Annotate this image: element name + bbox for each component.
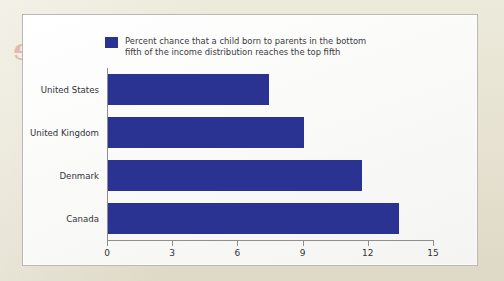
- bar: [108, 160, 362, 191]
- chart-legend: Percent chance that a child born to pare…: [105, 36, 366, 59]
- category-label: United Kingdom: [30, 128, 99, 138]
- scanned-page: Income Income Percent chance that a chil…: [0, 0, 504, 281]
- bar-row: Denmark: [108, 160, 362, 191]
- x-axis-tick: [433, 241, 434, 246]
- plot-area: 03691215United StatesUnited KingdomDenma…: [107, 68, 433, 240]
- bar: [108, 117, 304, 148]
- bar-row: United States: [108, 74, 269, 105]
- legend-label: Percent chance that a child born to pare…: [125, 36, 366, 59]
- x-axis-tick: [303, 241, 304, 246]
- x-axis-tick-label: 3: [169, 248, 175, 258]
- bar-row: Canada: [108, 203, 399, 234]
- category-label: Canada: [66, 214, 99, 224]
- chart-panel: Percent chance that a child born to pare…: [22, 14, 478, 266]
- x-axis-tick: [172, 241, 173, 246]
- x-axis-tick-label: 0: [104, 248, 110, 258]
- category-label: Denmark: [60, 171, 100, 181]
- x-axis-tick: [237, 241, 238, 246]
- category-label: United States: [41, 85, 99, 95]
- x-axis-tick-label: 12: [362, 248, 373, 258]
- x-axis-line: [107, 240, 434, 241]
- legend-color-swatch: [105, 37, 118, 48]
- x-axis-tick-label: 9: [300, 248, 306, 258]
- bar: [108, 74, 269, 105]
- x-axis-tick: [368, 241, 369, 246]
- x-axis-tick-label: 15: [427, 248, 438, 258]
- x-axis-tick-label: 6: [235, 248, 241, 258]
- x-axis-tick: [107, 241, 108, 246]
- bar: [108, 203, 399, 234]
- bar-row: United Kingdom: [108, 117, 304, 148]
